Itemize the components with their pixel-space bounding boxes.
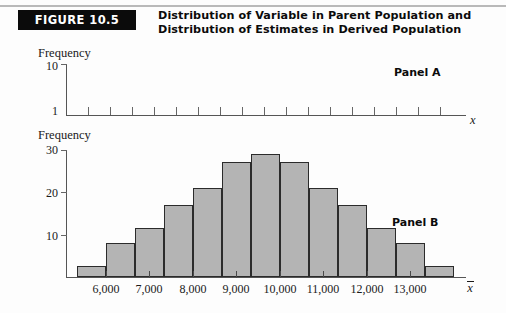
panel-a-x-tick [396, 107, 397, 115]
panel-b-x-tick-label: 13,000 [382, 282, 438, 297]
panel-a-x-tick [330, 107, 331, 115]
panel-a-x-tick [132, 107, 133, 115]
panel-a-x-tick [110, 107, 111, 115]
panel-a-label: Panel A [394, 66, 441, 79]
panel-a-y-axis-line [66, 64, 67, 116]
panel-a-x-tick [198, 107, 199, 115]
figure-number-label: FIGURE 10.5 [35, 13, 119, 27]
panel-b-y-tick-10: 10 [34, 229, 58, 244]
panel-b-y-axis-title: Frequency [38, 128, 91, 143]
panel-b-y-tick-mark-10 [61, 235, 67, 236]
panel-b-y-tick-30: 30 [34, 143, 58, 158]
header-divider [0, 5, 506, 7]
figure-number-badge: FIGURE 10.5 [18, 10, 136, 30]
histogram-bar [309, 188, 338, 277]
histogram-bar [425, 266, 454, 277]
figure-title-line-2: Distribution of Estimates in Derived Pop… [158, 23, 488, 37]
histogram-bar [77, 266, 106, 277]
panel-b-y-tick-mark-30 [61, 150, 67, 151]
figure-title: Distribution of Variable in Parent Popul… [158, 9, 488, 37]
histogram-bar [135, 228, 164, 277]
panel-b-label: Panel B [392, 216, 438, 229]
panel-b-x-tick [106, 271, 107, 278]
panel-a-x-tick [176, 107, 177, 115]
panel-a-x-tick [154, 107, 155, 115]
panel-b-x-tick [193, 271, 194, 278]
panel-a-y-tick-1: 1 [36, 104, 58, 119]
histogram-bar [367, 228, 396, 277]
x-bar-symbol: x [461, 283, 479, 293]
histogram-bar [193, 188, 222, 277]
histogram-bar [338, 205, 367, 277]
panel-b-x-tick [149, 271, 150, 278]
panel-b-y-tick-20: 20 [34, 186, 58, 201]
panel-a-x-tick [374, 107, 375, 115]
panel-a-x-axis-label: x [470, 113, 476, 128]
panel-a-x-tick [220, 107, 221, 115]
panel-b-x-tick [280, 271, 281, 278]
panel-a-x-tick [440, 107, 441, 115]
histogram-bar [164, 205, 193, 277]
figure-container: FIGURE 10.5 Distribution of Variable in … [0, 0, 506, 313]
panel-b-x-tick [367, 271, 368, 278]
histogram-bar [251, 154, 280, 277]
panel-a-x-tick [308, 107, 309, 115]
panel-a-y-tick-mark-10 [61, 64, 67, 65]
histogram-bar [280, 162, 309, 277]
figure-title-line-1: Distribution of Variable in Parent Popul… [158, 9, 488, 23]
panel-a-x-tick [264, 107, 265, 115]
panel-b-x-tick [410, 271, 411, 278]
panel-a-x-axis-line [66, 115, 466, 116]
panel-b-y-tick-mark-20 [61, 192, 67, 193]
panel-a-x-tick [352, 107, 353, 115]
panel-b-x-axis-line [66, 277, 466, 278]
panel-a-x-tick [88, 107, 89, 115]
panel-b-x-tick [323, 271, 324, 278]
panel-a-x-tick [418, 107, 419, 115]
histogram-bar [222, 162, 251, 277]
panel-a-x-tick [242, 107, 243, 115]
panel-a-x-tick [286, 107, 287, 115]
panel-b-x-axis-label: x [461, 281, 479, 293]
panel-b-y-axis-line [66, 150, 67, 278]
panel-a-y-tick-10: 10 [36, 59, 58, 74]
histogram-bar [106, 243, 135, 277]
panel-b-x-tick [236, 271, 237, 278]
